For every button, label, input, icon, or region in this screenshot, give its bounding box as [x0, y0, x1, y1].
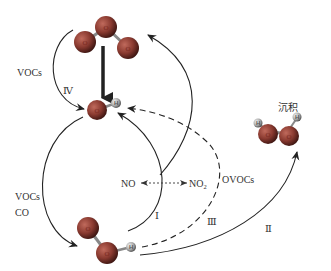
svg-text:O: O — [104, 24, 109, 32]
arrow-to-o3 — [148, 35, 192, 175]
hydroperoxyl-molecule: O O H — [77, 217, 136, 264]
label-vocs-top: VOCs — [17, 67, 42, 78]
svg-text:O: O — [83, 39, 88, 47]
svg-text:O: O — [266, 131, 271, 139]
hydroxyl-molecule: O H — [87, 98, 121, 120]
svg-text:O: O — [105, 250, 110, 258]
hydrogen-peroxide-molecule: H O O H — [254, 113, 302, 147]
svg-text:O: O — [95, 107, 100, 115]
label-path-iii: Ⅲ — [207, 216, 217, 227]
svg-text:H: H — [129, 244, 133, 250]
arrow-path-ii — [140, 152, 297, 255]
label-co: CO — [15, 207, 29, 218]
svg-text:H: H — [256, 120, 260, 126]
diagram-canvas: O O O O H O O H H O O H 沉积 VOCs Ⅳ VO — [0, 0, 331, 271]
svg-text:H: H — [295, 114, 299, 120]
label-vocs-bottom: VOCs — [15, 191, 40, 202]
label-ovocs: OVOCs — [222, 174, 254, 185]
label-path-i: Ⅰ — [155, 210, 159, 221]
reaction-diagram: O O O O H O O H H O O H 沉积 VOCs Ⅳ VO — [0, 0, 331, 271]
label-path-iv: Ⅳ — [63, 85, 74, 96]
svg-text:O: O — [126, 45, 131, 53]
svg-text:O: O — [86, 225, 91, 233]
label-no: NO — [121, 178, 135, 189]
deposition-label: 沉积 — [278, 101, 298, 113]
label-no2: NO2 — [189, 178, 207, 190]
ozone-molecule: O O O — [74, 16, 139, 59]
arrow-path-iii — [128, 108, 220, 247]
svg-text:O: O — [287, 133, 292, 141]
arrow-oh-to-ho2 — [42, 117, 83, 246]
label-path-ii: Ⅱ — [265, 223, 272, 234]
svg-text:H: H — [114, 100, 118, 106]
